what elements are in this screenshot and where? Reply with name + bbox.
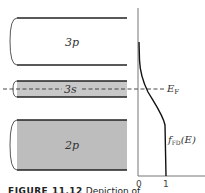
band-label-2p: 2p <box>64 139 79 152</box>
fermi-label: EF <box>166 83 179 96</box>
figure-caption: FIGURE 11.12 Depiction of <box>8 186 140 193</box>
band-2p: 2p <box>10 120 127 170</box>
fermi-dirac-curve <box>139 42 166 176</box>
tick-1: 1 <box>163 179 169 189</box>
curve-label: fFD(E) <box>167 134 196 146</box>
caption-figure-number: FIGURE 11.12 <box>8 186 83 193</box>
caption-text: Depiction of <box>86 186 140 193</box>
band-label-3p: 3p <box>65 36 79 49</box>
band-label-3s: 3s <box>64 83 77 96</box>
band-diagram: 3p 3s 2p EF 0 1 fFD(E) <box>0 0 205 193</box>
band-3p: 3p <box>10 18 127 65</box>
